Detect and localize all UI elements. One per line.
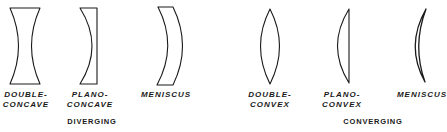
- group-label-diverging: DIVERGING: [62, 117, 122, 126]
- lens-label-double-convex: DOUBLE- CONVEX: [244, 90, 296, 110]
- lens-label-plano-concave: PLANO- CONCAVE: [64, 90, 116, 110]
- plano-concave-lens-icon: [80, 8, 97, 84]
- label-line: CONVEX: [244, 100, 296, 110]
- group-label-converging: CONVERGING: [338, 117, 408, 126]
- meniscus-converging-lens-icon: [415, 9, 426, 82]
- double-convex-lens-icon: [261, 9, 280, 84]
- label-line: DOUBLE-: [0, 90, 52, 100]
- label-line: CONVEX: [316, 100, 368, 110]
- label-line: MENISCUS: [140, 90, 192, 100]
- lens-label-meniscus-converging: MENISCUS: [396, 90, 447, 100]
- label-line: DOUBLE-: [244, 90, 296, 100]
- lens-label-plano-convex: PLANO- CONVEX: [316, 90, 368, 110]
- label-line: MENISCUS: [396, 90, 447, 100]
- lens-label-meniscus-diverging: MENISCUS: [140, 90, 192, 100]
- label-line: CONCAVE: [0, 100, 52, 110]
- lens-label-double-concave: DOUBLE- CONCAVE: [0, 90, 52, 110]
- meniscus-diverging-lens-icon: [157, 7, 183, 85]
- plano-convex-lens-icon: [338, 9, 350, 83]
- label-line: PLANO-: [316, 90, 368, 100]
- lens-diagram: [0, 0, 447, 132]
- label-line: CONCAVE: [64, 100, 116, 110]
- label-line: PLANO-: [64, 90, 116, 100]
- double-concave-lens-icon: [10, 8, 40, 84]
